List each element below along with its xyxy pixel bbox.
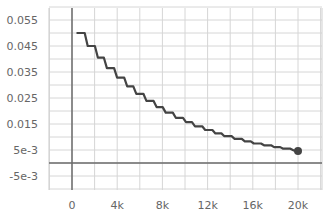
series-end-marker[interactable] — [294, 147, 302, 155]
y-tick-label: 0.035 — [7, 66, 39, 79]
line-chart: 0.0550.0450.0350.0250.0155e-3-5e-3 04k8k… — [0, 0, 330, 217]
y-tick-label: 0.045 — [7, 40, 39, 53]
data-series-line — [77, 33, 299, 151]
x-tick-label: 8k — [156, 199, 170, 212]
y-axis-ticks: 0.0550.0450.0350.0250.0155e-3-5e-3 — [7, 14, 39, 183]
x-tick-label: 16k — [243, 199, 264, 212]
x-tick-label: 12k — [197, 199, 218, 212]
y-tick-label: 0.055 — [7, 14, 39, 27]
x-tick-label: 20k — [288, 199, 309, 212]
x-axis-ticks: 04k8k12k16k20k — [69, 199, 309, 212]
y-tick-label: 0.025 — [7, 92, 39, 105]
y-tick-label: -5e-3 — [9, 170, 38, 183]
x-tick-label: 0 — [69, 199, 76, 212]
y-tick-label: 5e-3 — [13, 144, 38, 157]
y-tick-label: 0.015 — [7, 118, 39, 131]
x-tick-label: 4k — [111, 199, 125, 212]
